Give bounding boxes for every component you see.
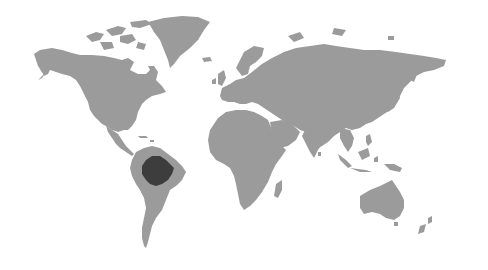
sri-lanka xyxy=(318,152,321,156)
caribbean xyxy=(138,136,154,142)
tasmania xyxy=(394,222,398,226)
iceland xyxy=(202,57,212,62)
greenland xyxy=(148,16,210,68)
philippines xyxy=(366,134,372,146)
canadian-arctic-islands xyxy=(86,20,152,50)
arctic-islands-eurasia xyxy=(288,28,394,42)
uk-ireland xyxy=(212,70,226,86)
australia xyxy=(360,180,404,220)
world-map xyxy=(0,0,488,270)
new-zealand xyxy=(418,216,432,234)
indonesia xyxy=(338,148,378,172)
indian-subcontinent xyxy=(302,126,326,158)
new-guinea xyxy=(384,164,402,172)
north-america xyxy=(34,48,166,132)
southeast-asia xyxy=(340,128,354,152)
madagascar xyxy=(274,180,282,198)
